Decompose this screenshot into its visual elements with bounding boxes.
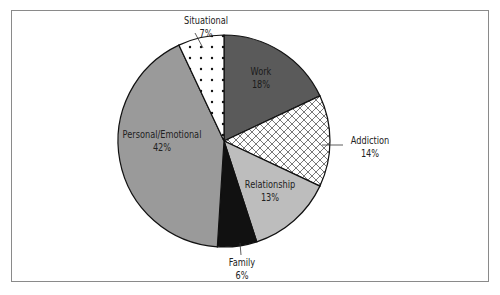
label-personal-pct: 42% (113, 141, 211, 154)
label-situational-pct: 7% (173, 27, 239, 40)
pie-chart (0, 0, 500, 295)
label-relationship: Relationship 13% (237, 178, 303, 204)
label-addiction-name: Addiction (345, 134, 394, 147)
label-relationship-pct: 13% (237, 191, 303, 204)
label-family: Family 6% (223, 256, 261, 282)
label-situational-name: Situational (173, 14, 239, 27)
label-situational: Situational 7% (173, 14, 239, 40)
label-personal-name: Personal/Emotional (113, 128, 211, 141)
label-work: Work 18% (241, 65, 282, 91)
label-addiction: Addiction 14% (345, 134, 394, 160)
label-work-pct: 18% (241, 78, 282, 91)
label-personal: Personal/Emotional 42% (113, 128, 211, 154)
label-relationship-name: Relationship (237, 178, 303, 191)
label-addiction-pct: 14% (345, 147, 394, 160)
label-family-name: Family (223, 256, 261, 269)
label-family-pct: 6% (223, 269, 261, 282)
label-work-name: Work (241, 65, 282, 78)
